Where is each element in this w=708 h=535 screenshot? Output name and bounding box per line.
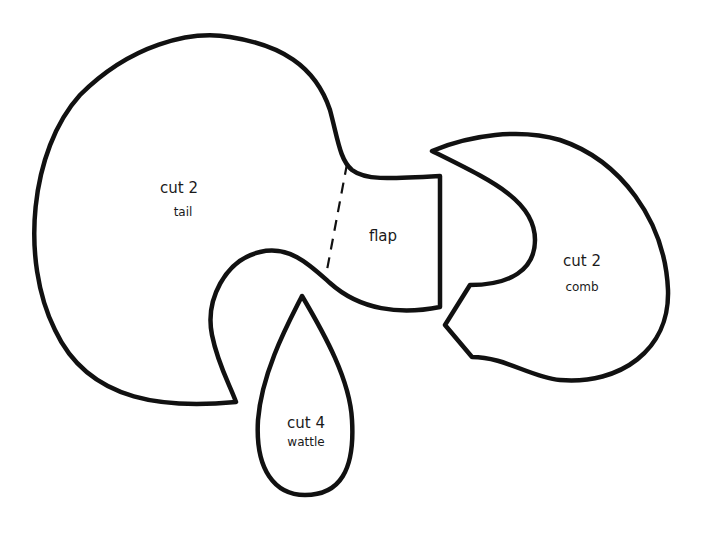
tail-label: tail xyxy=(174,206,193,218)
wattle-cut-count: cut 4 xyxy=(287,416,325,431)
comb-label: comb xyxy=(565,281,598,293)
tail-cut-count: cut 2 xyxy=(160,181,198,196)
wattle-label: wattle xyxy=(287,436,324,448)
flap-label: flap xyxy=(369,229,397,244)
flap-fold-line xyxy=(327,164,347,270)
pattern-canvas xyxy=(0,0,708,535)
tail-piece-outline xyxy=(34,35,440,404)
wattle-piece-outline xyxy=(258,296,353,495)
comb-cut-count: cut 2 xyxy=(563,254,601,269)
comb-piece-outline xyxy=(432,134,668,381)
